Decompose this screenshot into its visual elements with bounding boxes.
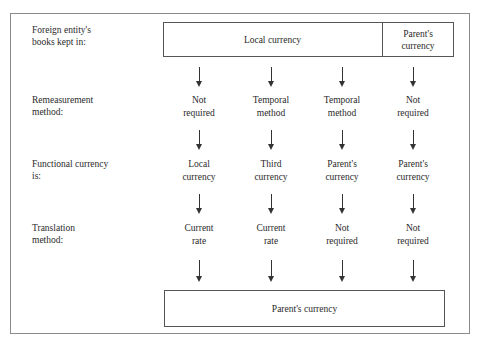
- row-label-line: Remeasurement: [32, 94, 93, 106]
- translation-cell: Current rate: [236, 222, 306, 247]
- row-label-line: Foreign entity's: [32, 24, 91, 36]
- row-label-line: method:: [32, 106, 93, 118]
- arrow-down-icon: [338, 194, 346, 214]
- arrow-down-icon: [267, 194, 275, 214]
- arrow-down-icon: [338, 67, 346, 87]
- row-label-translation: Translation method:: [32, 222, 75, 246]
- arrow-down-icon: [267, 260, 275, 282]
- cell-line: Current: [164, 222, 234, 235]
- books-parent-currency-line: Parent's: [403, 28, 433, 40]
- arrow-down-icon: [409, 130, 417, 150]
- row-label-line: method:: [32, 234, 75, 246]
- books-parent-currency-line: currency: [401, 40, 434, 52]
- parent-currency-label: Parent's currency: [164, 290, 445, 327]
- books-local-currency-text: Local currency: [244, 34, 301, 46]
- cell-line: currency: [378, 171, 448, 184]
- cell-line: rate: [236, 235, 306, 248]
- arrow-down-icon: [195, 67, 203, 87]
- cell-line: Parent's: [307, 158, 377, 171]
- arrow-down-icon: [338, 260, 346, 282]
- cell-line: Temporal: [307, 94, 377, 107]
- cell-line: required: [307, 235, 377, 248]
- arrow-down-icon: [195, 194, 203, 214]
- cell-line: Third: [236, 158, 306, 171]
- row-label-functional: Functional currency is:: [32, 158, 108, 182]
- remeasurement-cell: Not required: [378, 94, 448, 119]
- arrow-down-icon: [338, 130, 346, 150]
- cell-line: required: [164, 107, 234, 120]
- cell-line: currency: [236, 171, 306, 184]
- arrow-down-icon: [409, 194, 417, 214]
- functional-cell: Parent's currency: [307, 158, 377, 183]
- arrow-down-icon: [195, 260, 203, 282]
- cell-line: method: [307, 107, 377, 120]
- arrow-down-icon: [409, 67, 417, 87]
- row-label-line: Translation: [32, 222, 75, 234]
- functional-cell: Parent's currency: [378, 158, 448, 183]
- arrow-down-icon: [267, 130, 275, 150]
- row-label-line: is:: [32, 170, 108, 182]
- remeasurement-cell: Temporal method: [307, 94, 377, 119]
- arrow-down-icon: [409, 260, 417, 282]
- arrow-down-icon: [267, 67, 275, 87]
- books-local-currency: Local currency: [163, 22, 382, 57]
- arrow-down-icon: [195, 130, 203, 150]
- cell-line: required: [378, 235, 448, 248]
- cell-line: Local: [164, 158, 234, 171]
- functional-cell: Local currency: [164, 158, 234, 183]
- cell-line: Parent's: [378, 158, 448, 171]
- functional-cell: Third currency: [236, 158, 306, 183]
- translation-cell: Current rate: [164, 222, 234, 247]
- cell-line: Temporal: [236, 94, 306, 107]
- cell-line: currency: [164, 171, 234, 184]
- row-label-line: Functional currency: [32, 158, 108, 170]
- cell-line: Not: [307, 222, 377, 235]
- row-label-line: books kept in:: [32, 36, 91, 48]
- cell-line: Not: [378, 94, 448, 107]
- cell-line: Not: [378, 222, 448, 235]
- remeasurement-cell: Not required: [164, 94, 234, 119]
- translation-cell: Not required: [307, 222, 377, 247]
- cell-line: currency: [307, 171, 377, 184]
- cell-line: required: [378, 107, 448, 120]
- cell-line: Not: [164, 94, 234, 107]
- row-label-books: Foreign entity's books kept in:: [32, 24, 91, 48]
- cell-line: Current: [236, 222, 306, 235]
- remeasurement-cell: Temporal method: [236, 94, 306, 119]
- books-parent-currency: Parent's currency: [382, 22, 454, 57]
- translation-cell: Not required: [378, 222, 448, 247]
- row-label-remeasurement: Remeasurement method:: [32, 94, 93, 118]
- cell-line: method: [236, 107, 306, 120]
- cell-line: rate: [164, 235, 234, 248]
- parent-currency-text: Parent's currency: [272, 303, 337, 315]
